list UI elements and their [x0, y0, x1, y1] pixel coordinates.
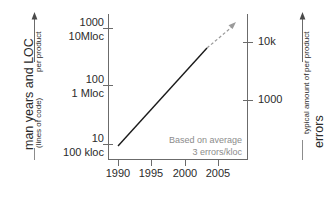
left-axis-subtitle-lines-of-code: (lines of code) [34, 98, 43, 148]
left-axis-tick-sublabel-100kloc: 100 kloc [40, 147, 104, 158]
annotation-line-1: Based on average [150, 134, 242, 146]
left-axis-tick-label-1000: 1000 [58, 17, 104, 28]
x-axis-tick-label-2000: 2000 [168, 168, 202, 179]
left-axis-tick-sublabel-1mloc: 1 Mloc [48, 88, 104, 99]
right-axis-subtitle-typical-amount-of: typical amount of [302, 74, 311, 134]
chart-annotation: Based on average 3 errors/kloc [150, 134, 242, 158]
chart-container: 1000 10Mloc 100 1 Mloc 10 100 kloc 10k 1… [0, 0, 330, 199]
right-axis-tick-label-10k: 10k [258, 36, 276, 47]
x-axis-ticks [119, 160, 219, 166]
right-axis-tick-label-1000: 1000 [258, 94, 282, 105]
left-axis-subtitle-per-product: per product [34, 32, 43, 72]
left-axis-tick-label-10: 10 [58, 133, 104, 144]
right-axis-subtitle-per-product: per product [302, 32, 311, 72]
left-axis-tick-sublabel-10mloc: 10Mloc [48, 31, 104, 42]
left-axis-tick-label-100: 100 [58, 74, 104, 85]
x-axis-tick-label-1995: 1995 [134, 168, 168, 179]
right-axis-title: errors [312, 115, 326, 148]
annotation-line-2: 3 errors/kloc [150, 146, 242, 158]
x-axis-tick-label-2005: 2005 [201, 168, 235, 179]
x-axis-tick-label-1990: 1990 [101, 168, 135, 179]
